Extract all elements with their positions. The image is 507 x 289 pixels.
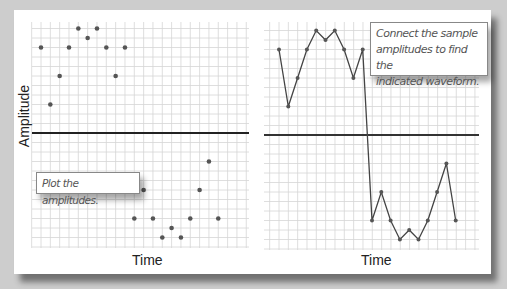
y-axis-label: Amplitude	[16, 85, 32, 147]
callout-line: Connect the sample	[376, 26, 482, 42]
connect-samples-callout: Connect the sample amplitudes to find th…	[370, 22, 488, 76]
right-x-axis-label: Time	[361, 252, 392, 268]
callout-line: amplitudes to find the	[376, 42, 482, 74]
left-x-axis-label: Time	[132, 252, 163, 268]
left-grid	[32, 22, 249, 248]
callout-line: indicated waveform.	[376, 74, 482, 90]
plot-amplitudes-callout: Plot the amplitudes.	[36, 172, 140, 194]
